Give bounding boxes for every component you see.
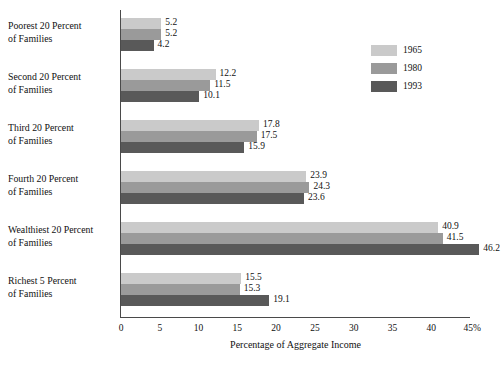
bar-row: 19.1 <box>121 295 470 306</box>
x-axis-line <box>120 317 470 318</box>
bar-1993 <box>121 142 244 153</box>
category-label: Richest 5 Percentof Families <box>8 275 114 300</box>
category-label: Fourth 20 Percentof Families <box>8 173 114 198</box>
bar-value-label: 5.2 <box>165 17 177 28</box>
bar-1993 <box>121 295 269 306</box>
category-label-line: Second 20 Percent <box>8 71 114 84</box>
x-tick-label: 35 <box>388 322 398 334</box>
category-label-line: Third 20 Percent <box>8 122 114 135</box>
bar-value-label: 5.2 <box>165 28 177 39</box>
bar-row: 23.6 <box>121 193 470 204</box>
bar-chart: Poorest 20 Percentof FamiliesSecond 20 P… <box>0 0 502 370</box>
legend-label: 1993 <box>403 79 422 94</box>
legend-swatch <box>371 81 397 92</box>
bar-value-label: 12.2 <box>220 68 237 79</box>
bar-1965 <box>121 273 241 284</box>
category-label-line: of Families <box>8 186 114 199</box>
bar-value-label: 46.2 <box>483 243 500 254</box>
bar-1980 <box>121 29 161 40</box>
x-tick-label: 15 <box>233 322 243 334</box>
category-label-line: of Families <box>8 288 114 301</box>
bar-value-label: 23.9 <box>310 170 327 181</box>
category-label-line: of Families <box>8 237 114 250</box>
x-axis-title: Percentage of Aggregate Income <box>121 339 470 350</box>
bar-1965 <box>121 18 161 29</box>
legend-label: 1980 <box>403 61 422 76</box>
bar-1980 <box>121 233 443 244</box>
category-label: Wealthiest 20 Percentof Families <box>8 224 114 249</box>
x-tick-label: 0 <box>119 322 124 334</box>
bar-value-label: 23.6 <box>308 192 325 203</box>
bar-1993 <box>121 193 304 204</box>
bar-row: 15.5 <box>121 273 470 284</box>
bar-value-label: 15.5 <box>245 272 262 283</box>
bar-row: 15.3 <box>121 284 470 295</box>
bar-row: 40.9 <box>121 222 470 233</box>
x-tick-label: 45% <box>463 322 480 334</box>
bar-row: 23.9 <box>121 171 470 182</box>
category-label: Third 20 Percentof Families <box>8 122 114 147</box>
category-label-line: Richest 5 Percent <box>8 275 114 288</box>
legend-label: 1965 <box>403 43 422 58</box>
category-label-line: Fourth 20 Percent <box>8 173 114 186</box>
bar-value-label: 11.5 <box>214 79 230 90</box>
bar-1965 <box>121 222 438 233</box>
category-label-line: Wealthiest 20 Percent <box>8 224 114 237</box>
x-tick-label: 40 <box>426 322 436 334</box>
x-tick-label: 5 <box>157 322 162 334</box>
bar-1980 <box>121 131 257 142</box>
category-label: Poorest 20 Percentof Families <box>8 20 114 45</box>
bar-row: 41.5 <box>121 233 470 244</box>
x-tick-label: 25 <box>310 322 320 334</box>
bar-value-label: 10.1 <box>203 90 220 101</box>
bar-value-label: 41.5 <box>447 232 464 243</box>
x-tick-label: 10 <box>194 322 204 334</box>
bar-row: 17.5 <box>121 131 470 142</box>
bar-row: 5.2 <box>121 29 470 40</box>
category-label: Second 20 Percentof Families <box>8 71 114 96</box>
bar-1965 <box>121 171 306 182</box>
x-tick-label: 30 <box>349 322 359 334</box>
bar-row: 15.9 <box>121 142 470 153</box>
bar-value-label: 15.9 <box>248 141 265 152</box>
bar-1965 <box>121 69 216 80</box>
bar-1993 <box>121 244 479 255</box>
bar-1993 <box>121 91 199 102</box>
bar-1980 <box>121 80 210 91</box>
bar-row: 46.2 <box>121 244 470 255</box>
legend-swatch <box>371 63 397 74</box>
category-label-line: of Families <box>8 33 114 46</box>
bar-value-label: 17.8 <box>263 119 280 130</box>
bar-row: 24.3 <box>121 182 470 193</box>
x-tick-label: 20 <box>271 322 281 334</box>
bar-row: 17.8 <box>121 120 470 131</box>
bar-1980 <box>121 284 240 295</box>
bar-value-label: 17.5 <box>261 130 278 141</box>
bar-value-label: 4.2 <box>158 39 170 50</box>
bar-value-label: 15.3 <box>244 283 261 294</box>
bar-1993 <box>121 40 154 51</box>
bar-value-label: 24.3 <box>313 181 330 192</box>
legend-swatch <box>371 45 397 56</box>
category-label-line: Poorest 20 Percent <box>8 20 114 33</box>
bar-value-label: 40.9 <box>442 221 459 232</box>
bar-value-label: 19.1 <box>273 294 290 305</box>
category-label-line: of Families <box>8 84 114 97</box>
category-label-line: of Families <box>8 135 114 148</box>
bar-1980 <box>121 182 309 193</box>
bar-1965 <box>121 120 259 131</box>
